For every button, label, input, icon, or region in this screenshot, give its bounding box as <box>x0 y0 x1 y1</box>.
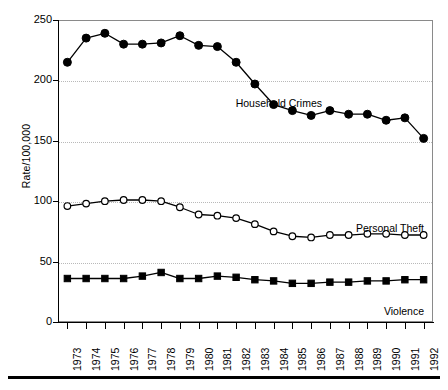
x-tick-label-1986: 1986 <box>316 348 327 371</box>
x-tick-mark-1992 <box>424 323 425 329</box>
x-tick-label-1989: 1989 <box>372 348 383 371</box>
x-tick-mark-1987 <box>330 323 331 329</box>
y-tick-label-0: 0 <box>18 316 52 327</box>
x-tick-label-1980: 1980 <box>204 348 215 371</box>
x-tick-mark-1983 <box>255 323 256 329</box>
x-tick-label-1983: 1983 <box>260 348 271 371</box>
x-tick-mark-1982 <box>236 323 237 329</box>
x-tick-label-1984: 1984 <box>279 348 290 371</box>
x-tick-mark-1975 <box>105 323 106 329</box>
x-tick-label-1987: 1987 <box>335 348 346 371</box>
x-tick-mark-1981 <box>217 323 218 329</box>
x-tick-mark-1973 <box>67 323 68 329</box>
x-tick-label-1988: 1988 <box>354 348 365 371</box>
x-tick-mark-1991 <box>405 323 406 329</box>
x-tick-label-1976: 1976 <box>129 348 140 371</box>
x-tick-label-1982: 1982 <box>241 348 252 371</box>
x-tick-mark-1980 <box>199 323 200 329</box>
series-annotation-household-crimes: Household Crimes <box>236 97 322 109</box>
gridline-50 <box>59 263 432 264</box>
y-tick-label-200: 200 <box>18 74 52 85</box>
chart-figure: Rate/100,000 050100150200250 19731974197… <box>0 0 448 390</box>
x-tick-mark-1974 <box>86 323 87 329</box>
y-tick-label-100: 100 <box>18 195 52 206</box>
x-tick-label-1992: 1992 <box>429 348 440 371</box>
y-tick-label-50: 50 <box>18 256 52 267</box>
x-axis-spine <box>58 322 434 323</box>
x-tick-mark-1977 <box>142 323 143 329</box>
x-tick-mark-1976 <box>124 323 125 329</box>
bottom-rule <box>8 376 440 379</box>
x-tick-mark-1979 <box>180 323 181 329</box>
x-tick-mark-1988 <box>349 323 350 329</box>
x-tick-label-1979: 1979 <box>185 348 196 371</box>
x-tick-label-1974: 1974 <box>91 348 102 371</box>
x-tick-label-1981: 1981 <box>222 348 233 371</box>
plot-area <box>58 20 433 322</box>
x-tick-mark-1985 <box>292 323 293 329</box>
x-tick-label-1991: 1991 <box>410 348 421 371</box>
gridline-150 <box>59 142 432 143</box>
x-tick-mark-1986 <box>311 323 312 329</box>
x-tick-label-1973: 1973 <box>72 348 83 371</box>
gridline-200 <box>59 81 432 82</box>
y-tick-label-250: 250 <box>18 14 52 25</box>
x-tick-mark-1984 <box>274 323 275 329</box>
x-tick-label-1990: 1990 <box>391 348 402 371</box>
x-tick-mark-1989 <box>367 323 368 329</box>
gridline-100 <box>59 202 432 203</box>
series-annotation-violence: Violence <box>384 305 424 317</box>
x-tick-label-1977: 1977 <box>147 348 158 371</box>
x-tick-mark-1990 <box>386 323 387 329</box>
y-tick-label-150: 150 <box>18 135 52 146</box>
x-tick-label-1975: 1975 <box>110 348 121 371</box>
x-tick-label-1985: 1985 <box>297 348 308 371</box>
x-tick-label-1978: 1978 <box>166 348 177 371</box>
y-axis-spine <box>58 20 59 323</box>
series-annotation-personal-theft: Personal Theft <box>356 222 424 234</box>
x-tick-mark-1978 <box>161 323 162 329</box>
